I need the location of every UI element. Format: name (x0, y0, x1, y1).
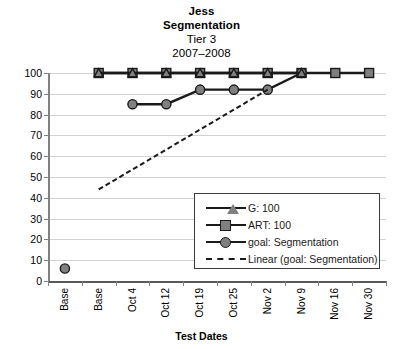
y-axis-tick-label: 20 (0, 234, 42, 244)
x-axis-tick-mark (82, 281, 83, 286)
y-axis-tick-label: 30 (0, 214, 42, 224)
x-axis-tick-mark (217, 281, 218, 286)
y-axis-tick-mark (44, 219, 48, 220)
segmentation-line-chart: Jess Segmentation Tier 3 2007–2008 01020… (0, 0, 403, 349)
legend-item-art: ART: 100 (195, 216, 379, 233)
chart-title-line-1: Jess (0, 4, 403, 18)
y-axis-tick-mark (44, 94, 48, 95)
y-axis-tick-mark (44, 73, 48, 74)
x-axis-tick-label: Nov 30 (364, 288, 374, 320)
x-axis-tick-mark (352, 281, 353, 286)
gridline (48, 156, 386, 157)
x-axis-tick-label: Base (60, 288, 70, 311)
y-axis-tick-mark (44, 198, 48, 199)
y-axis-tick-label: 70 (0, 130, 42, 140)
y-axis-tick-label: 100 (0, 68, 42, 78)
y-axis-tick-label: 40 (0, 193, 42, 203)
x-axis-tick-mark (386, 281, 387, 286)
y-axis-tick-label: 0 (0, 276, 42, 286)
x-axis-tick-mark (149, 281, 150, 286)
x-axis-tick-label: Nov 16 (330, 288, 340, 320)
gridline (48, 94, 386, 95)
gridline (48, 135, 386, 136)
y-axis-tick-mark (44, 115, 48, 116)
y-axis-tick-mark (44, 260, 48, 261)
y-axis-tick-mark (44, 177, 48, 178)
x-axis-title: Test Dates (0, 330, 403, 342)
legend-item-trendline: Linear (goal: Segmentation) (195, 250, 379, 267)
legend-item-goal: goal: Segmentation (195, 233, 379, 250)
x-axis-tick-mark (116, 281, 117, 286)
chart-title-line-4: 2007–2008 (0, 46, 403, 60)
legend-label-art: ART: 100 (248, 219, 291, 231)
gridline (48, 115, 386, 116)
y-axis-tick-label: 50 (0, 172, 42, 182)
legend-label-g: G: 100 (248, 202, 280, 214)
x-axis-tick-mark (183, 281, 184, 286)
y-axis-tick-label: 60 (0, 151, 42, 161)
legend-label-goal: goal: Segmentation (248, 236, 338, 248)
x-axis-tick-mark (48, 281, 49, 286)
chart-title-line-3: Tier 3 (0, 32, 403, 46)
legend-label-trendline: Linear (goal: Segmentation) (248, 253, 378, 265)
x-axis-tick-label: Nov 9 (297, 288, 307, 314)
circle-marker-icon (204, 235, 248, 249)
x-axis-tick-label: Nov 2 (263, 288, 273, 314)
x-axis-tick-label: Oct 12 (161, 288, 171, 317)
y-axis-line (48, 73, 50, 282)
y-axis-tick-label: 90 (0, 89, 42, 99)
gridline (48, 177, 386, 178)
y-axis-tick-label: 10 (0, 255, 42, 265)
dashed-line-icon (204, 252, 248, 266)
x-axis-tick-mark (251, 281, 252, 286)
x-axis-tick-label: Oct 4 (128, 288, 138, 312)
chart-title: Jess Segmentation Tier 3 2007–2008 (0, 4, 403, 60)
triangle-marker-icon (204, 201, 248, 215)
x-axis-tick-mark (318, 281, 319, 286)
x-axis-tick-label: Oct 25 (229, 288, 239, 317)
y-axis-tick-label: 80 (0, 110, 42, 120)
square-marker-icon (204, 218, 248, 232)
y-axis-tick-mark (44, 239, 48, 240)
x-axis-tick-label: Oct 19 (195, 288, 205, 317)
gridline (48, 73, 386, 74)
chart-title-line-2: Segmentation (0, 18, 403, 32)
y-axis-tick-mark (44, 135, 48, 136)
x-axis-tick-label: Base (94, 288, 104, 311)
chart-legend: G: 100 ART: 100 goal: Segmentation Linea… (194, 193, 380, 269)
legend-item-g: G: 100 (195, 199, 379, 216)
x-axis-tick-mark (285, 281, 286, 286)
y-axis-tick-mark (44, 156, 48, 157)
